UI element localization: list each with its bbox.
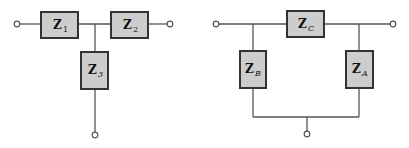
terminal-left	[213, 21, 219, 27]
terminal-bottom	[304, 131, 310, 137]
impedance-subscript: 3	[98, 70, 103, 79]
pi-network: Z C Z B Z A	[213, 11, 396, 137]
impedance-subscript: 2	[133, 25, 138, 34]
impedance-symbol: Z	[123, 18, 132, 32]
impedance-subscript: B	[254, 69, 261, 78]
impedance-z3: Z 3	[81, 52, 108, 89]
impedance-symbol: Z	[245, 62, 254, 76]
impedance-za: Z A	[346, 51, 373, 88]
impedance-zb: Z B	[240, 51, 266, 88]
impedance-z2: Z 2	[111, 12, 148, 38]
terminal-right	[167, 21, 173, 27]
tee-network: Z 1 Z 2 Z 3	[14, 12, 173, 138]
impedance-symbol: Z	[352, 62, 361, 76]
terminal-left	[14, 21, 20, 27]
circuit-diagram: Z 1 Z 2 Z 3 Z	[0, 0, 409, 148]
impedance-subscript: 1	[63, 25, 68, 34]
terminal-bottom	[92, 132, 98, 138]
impedance-symbol: Z	[298, 17, 307, 31]
impedance-subscript: A	[361, 69, 368, 78]
terminal-right	[390, 21, 396, 27]
impedance-z1: Z 1	[41, 12, 78, 38]
impedance-symbol: Z	[53, 18, 62, 32]
impedance-symbol: Z	[88, 63, 97, 77]
impedance-zc: Z C	[287, 11, 324, 37]
impedance-subscript: C	[308, 24, 314, 33]
